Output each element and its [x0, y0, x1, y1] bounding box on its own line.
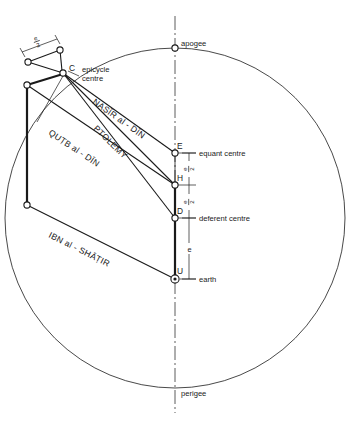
label-perigee: perigee — [181, 389, 206, 398]
dimension-eh-half-e: e 2 — [182, 161, 195, 177]
construction-leader-c — [37, 76, 63, 122]
node-tusi-left — [25, 59, 31, 65]
point-label-C: C — [69, 63, 75, 73]
node-left-mid — [24, 82, 30, 88]
label-ibn-al-shatir: IBN al - SHĀṬIR — [47, 230, 111, 269]
node-apogee — [172, 45, 178, 51]
label-equant-centre: equant centre — [199, 149, 245, 158]
top-half-e-numerator: e — [33, 35, 39, 42]
point-label-U: U — [177, 266, 183, 276]
point-label-D: D — [177, 206, 183, 216]
du-e-label: e — [187, 245, 191, 254]
label-apogee: apogee — [181, 39, 206, 48]
label-earth: earth — [199, 275, 216, 284]
point-label-H: H — [177, 173, 183, 183]
dimension-top-half-e: e 2 — [20, 34, 60, 57]
dimension-du-e: e — [184, 243, 195, 254]
point-label-E: E — [177, 141, 183, 151]
tusi-link-upper — [28, 50, 60, 62]
label-deferent-centre: deferent centre — [199, 214, 250, 223]
astronomy-diagram: e 2 e 2 e 2 — [0, 0, 353, 421]
node-left-low — [24, 202, 30, 208]
dimension-hd-half-e: e 2 — [182, 194, 195, 210]
line-c-to-h — [63, 73, 175, 185]
label-epicycle-centre-line1: epicycle — [82, 65, 109, 74]
label-qutb-al-din: QUṬB al - DĪN — [47, 127, 102, 168]
earth-symbol — [171, 275, 179, 283]
node-epicycle-centre-C — [60, 70, 66, 76]
label-epicycle-centre-line2: centre — [82, 74, 103, 83]
diagram-canvas: e 2 e 2 e 2 — [0, 0, 353, 421]
label-ptolemy: PTOLEMY — [92, 123, 130, 160]
crank-c-to-left-node — [27, 74, 63, 85]
line-ibn-al-shatir — [27, 205, 175, 279]
node-tusi-top — [57, 47, 63, 53]
tusi-link-lower — [28, 62, 63, 73]
